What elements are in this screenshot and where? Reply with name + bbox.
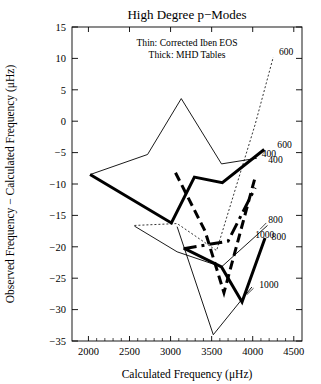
y-tick-label: −30	[50, 304, 66, 315]
y-tick-label: −10	[50, 179, 66, 190]
chart-title: High Degree p−Modes	[127, 7, 246, 22]
x-tick-label: 2000	[78, 346, 99, 357]
x-tick-label: 3000	[160, 346, 181, 357]
chart-figure: 60060040040080010008001000 2000250030003…	[0, 0, 321, 384]
y-tick-label: 0	[61, 116, 66, 127]
series-annotation-label: 600	[277, 139, 292, 150]
x-tick-label: 3500	[201, 346, 222, 357]
y-tick-label: 5	[61, 85, 66, 96]
legend-line-thin: Thin: Corrected Iben EOS	[137, 37, 238, 48]
series-annotation-label: 800	[268, 214, 283, 225]
x-tick-label: 2500	[119, 346, 140, 357]
series-annotation-label: 800	[272, 231, 287, 242]
series-line	[90, 149, 264, 222]
legend-line-thick: Thick: MHD Tables	[149, 49, 226, 60]
y-tick-label: 10	[56, 53, 67, 64]
y-tick-label: −5	[55, 147, 66, 158]
x-tick-label: 4000	[242, 346, 263, 357]
series-line	[90, 99, 257, 175]
series-line	[134, 225, 267, 266]
series-annotation-label: 400	[268, 154, 283, 165]
annotation-labels: 60060040040080010008001000	[247, 46, 294, 295]
series-line	[184, 188, 255, 249]
y-tick-label: −15	[50, 210, 66, 221]
x-tick-label: 4500	[283, 346, 304, 357]
y-tick-label: 15	[56, 22, 67, 33]
y-tick-label: −20	[50, 242, 66, 253]
data-series-group	[90, 57, 273, 335]
y-axis-label: Observed Frequency − Calculated Frequenc…	[4, 65, 17, 304]
series-annotation-label: 600	[279, 46, 294, 57]
series-annotation-label: 1000	[259, 279, 278, 290]
y-tick-label: −35	[50, 336, 66, 347]
chart-canvas: 60060040040080010008001000 2000250030003…	[0, 0, 321, 384]
x-axis-label: Calculated Frequency (μHz)	[122, 368, 253, 381]
y-tick-labels: −35−30−25−20−15−10−5051015	[50, 22, 66, 347]
x-tick-labels: 200025003000350040004500	[78, 346, 304, 357]
series-line	[134, 57, 273, 250]
y-tick-label: −25	[50, 273, 66, 284]
